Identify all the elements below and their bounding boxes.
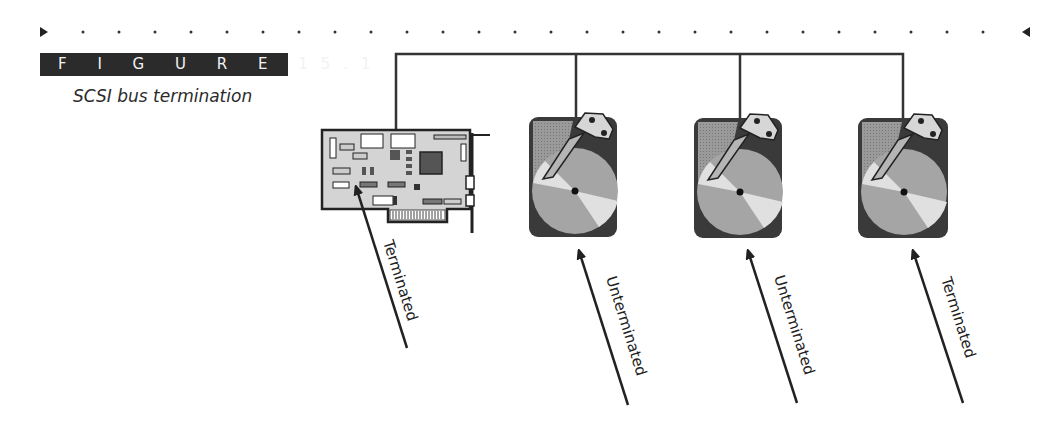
rule-dots <box>82 31 985 34</box>
hard-drive-icon-1 <box>529 113 618 237</box>
rule-arrow-right-icon <box>1022 27 1030 37</box>
top-rule <box>40 27 1030 37</box>
figure-number-label: F I G U R E 15.1 <box>40 53 288 76</box>
label-drive-3-terminated: Terminated <box>937 274 980 360</box>
hard-drive-icon-2 <box>694 114 783 238</box>
label-drive-2-unterminated: Unterminated <box>770 273 818 377</box>
scsi-host-adapter-card-icon <box>322 130 490 233</box>
hard-drive-icon-3 <box>858 114 948 238</box>
label-drive-1-unterminated: Unterminated <box>602 274 650 378</box>
rule-arrow-left-icon <box>40 27 48 37</box>
figure-caption: SCSI bus termination <box>73 86 252 106</box>
scsi-bus-cable <box>396 54 903 131</box>
